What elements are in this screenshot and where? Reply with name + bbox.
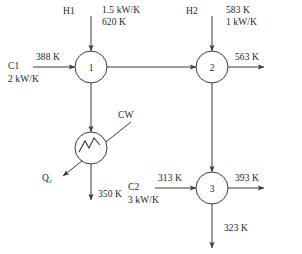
- unit-2-label: 2: [210, 63, 215, 73]
- heat-exchanger-network-diagram: 1 2 3 H1 1.5 kW/K 620 K H2 583 K 1 kW/K …: [0, 0, 302, 254]
- unit-1-label: 1: [89, 63, 94, 73]
- c2-target-temperature-label: 393 K: [235, 173, 259, 184]
- h2-target-temperature-label: 323 K: [224, 223, 248, 234]
- c2-supply-temperature-label: 313 K: [158, 173, 182, 184]
- cooler-duty-label: Qc: [42, 173, 52, 185]
- c1-heat-capacity-label: 2 kW/K: [8, 74, 39, 85]
- cooler-circle: [75, 132, 107, 164]
- c2-heat-capacity-label: 3 kW/K: [128, 195, 159, 206]
- h1-target-temperature-label: 350 K: [98, 189, 122, 200]
- h1-stream-label: H1: [63, 6, 75, 17]
- h1-supply-temperature-label: 620 K: [102, 17, 126, 28]
- h2-heat-capacity-label: 1 kW/K: [226, 17, 257, 28]
- h2-stream-label: H2: [186, 6, 198, 17]
- c1-target-temperature-label: 563 K: [235, 52, 259, 63]
- h2-supply-temperature-label: 583 K: [226, 5, 250, 16]
- h1-heat-capacity-label: 1.5 kW/K: [102, 5, 140, 16]
- unit-3-label: 3: [210, 184, 215, 194]
- cooler-duty-subscript: c: [49, 177, 52, 185]
- flowsheet-graphics: 1 2 3: [0, 0, 302, 254]
- c1-stream-label: C1: [8, 61, 19, 72]
- cooling-water-label: CW: [118, 110, 134, 121]
- c1-supply-temperature-label: 388 K: [36, 52, 60, 63]
- c2-stream-label: C2: [128, 182, 139, 193]
- cooler-duty-symbol: Q: [42, 173, 49, 183]
